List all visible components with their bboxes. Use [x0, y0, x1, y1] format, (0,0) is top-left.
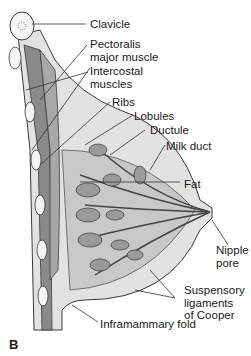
label-intercostal-muscles: Intercostal muscles: [90, 65, 143, 90]
label-pectoralis-major-muscle: Pectoralis major muscle: [90, 38, 158, 63]
breast-anatomy-figure: Clavicle Pectoralis major muscle Interco…: [0, 0, 251, 356]
label-suspensory-ligaments: Suspensory ligaments of Cooper: [184, 284, 245, 322]
label-inframammary-fold: Inframammary fold: [100, 318, 196, 331]
label-ribs: Ribs: [112, 96, 135, 109]
label-nipple-pore: Nipple pore: [216, 244, 249, 269]
label-lobules: Lobules: [134, 110, 174, 123]
label-ductule: Ductule: [150, 124, 189, 137]
label-clavicle: Clavicle: [90, 18, 130, 31]
panel-label: B: [9, 337, 18, 352]
label-milk-duct: Milk duct: [166, 140, 211, 153]
label-fat: Fat: [184, 178, 201, 191]
